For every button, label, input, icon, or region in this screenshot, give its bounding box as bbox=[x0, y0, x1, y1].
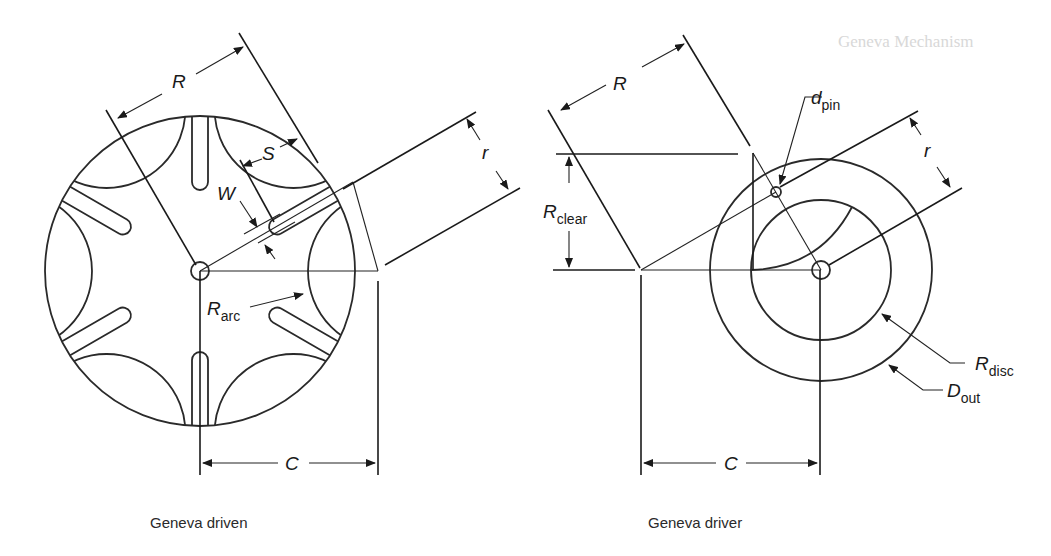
driven-r-label: r bbox=[482, 142, 489, 163]
driver-r-label: r bbox=[924, 140, 931, 161]
driven-C-label: C bbox=[285, 453, 299, 474]
driver-Rdisc-label: Rdisc bbox=[975, 353, 1014, 379]
driven-caption: Geneva driven bbox=[150, 514, 248, 531]
driver-R-label: R bbox=[613, 73, 627, 94]
geneva-driven-figure: R S W r Rarc C Geneva driven bbox=[0, 30, 520, 531]
driven-Rarc-label: Rarc bbox=[207, 298, 240, 324]
driver-caption: Geneva driver bbox=[648, 514, 742, 531]
ghost-heading: Geneva Mechanism bbox=[838, 32, 973, 51]
driver-C-label: C bbox=[724, 453, 738, 474]
driven-S-label: S bbox=[262, 143, 275, 164]
driver-Dout-label: Dout bbox=[947, 380, 980, 406]
driven-W-label: W bbox=[217, 183, 237, 204]
driver-dpin-label: dpin bbox=[811, 87, 840, 113]
geneva-driver-figure: R Rclear dpin r Rdisc Dout bbox=[543, 35, 1014, 531]
geneva-mechanism-diagram: Geneva Mechanism bbox=[0, 0, 1051, 556]
driver-Rclear-label: Rclear bbox=[543, 201, 587, 227]
driven-R-label: R bbox=[172, 71, 186, 92]
